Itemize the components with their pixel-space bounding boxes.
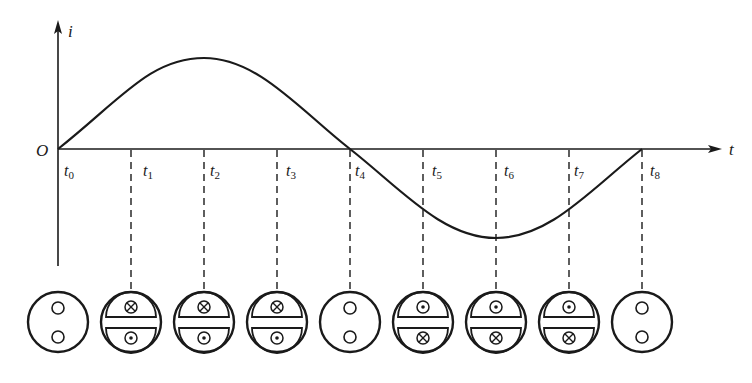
coil-icon-t0 bbox=[28, 292, 88, 352]
into-page-icon bbox=[271, 301, 283, 313]
into-page-icon bbox=[198, 301, 210, 313]
time-label-t1: t1 bbox=[143, 162, 153, 181]
out-of-page-icon bbox=[563, 301, 575, 313]
coil-icon-t6 bbox=[466, 292, 526, 353]
time-label-t2: t2 bbox=[210, 162, 220, 181]
time-label-t5: t5 bbox=[432, 162, 442, 181]
coil-icon-t5 bbox=[393, 292, 453, 353]
into-page-icon bbox=[563, 332, 575, 344]
out-of-page-icon bbox=[271, 332, 283, 344]
time-label-t7: t7 bbox=[574, 162, 584, 181]
into-page-icon bbox=[417, 332, 429, 344]
into-page-icon bbox=[490, 332, 502, 344]
time-label-t8: t8 bbox=[650, 162, 660, 181]
coil-icon-t4 bbox=[320, 292, 380, 352]
coil-icon-t2 bbox=[174, 292, 234, 353]
out-of-page-icon bbox=[490, 301, 502, 313]
time-label-t3: t3 bbox=[286, 162, 296, 181]
y-axis: i bbox=[54, 20, 73, 266]
time-label-t4: t4 bbox=[355, 162, 365, 181]
coil-icon-t8 bbox=[612, 292, 672, 352]
coil-icon-t3 bbox=[247, 292, 307, 353]
origin-label: O bbox=[36, 141, 48, 160]
sine-coil-diagram: i t O t0 t1 t2 t3 t4 t5 t6 t7 t8 bbox=[0, 0, 752, 383]
out-of-page-icon bbox=[417, 301, 429, 313]
time-labels: t0 t1 t2 t3 t4 t5 t6 t7 t8 bbox=[64, 162, 660, 181]
out-of-page-icon bbox=[125, 332, 137, 344]
coil-states bbox=[28, 292, 672, 353]
y-axis-label: i bbox=[68, 22, 73, 41]
time-label-t0: t0 bbox=[64, 162, 74, 181]
out-of-page-icon bbox=[198, 332, 210, 344]
coil-icon-t7 bbox=[539, 292, 599, 353]
x-axis: t O bbox=[36, 140, 735, 160]
into-page-icon bbox=[125, 301, 137, 313]
time-label-t6: t6 bbox=[504, 162, 514, 181]
coil-icon-t1 bbox=[101, 292, 161, 353]
x-axis-label: t bbox=[729, 140, 735, 159]
dashed-guides bbox=[131, 150, 642, 290]
